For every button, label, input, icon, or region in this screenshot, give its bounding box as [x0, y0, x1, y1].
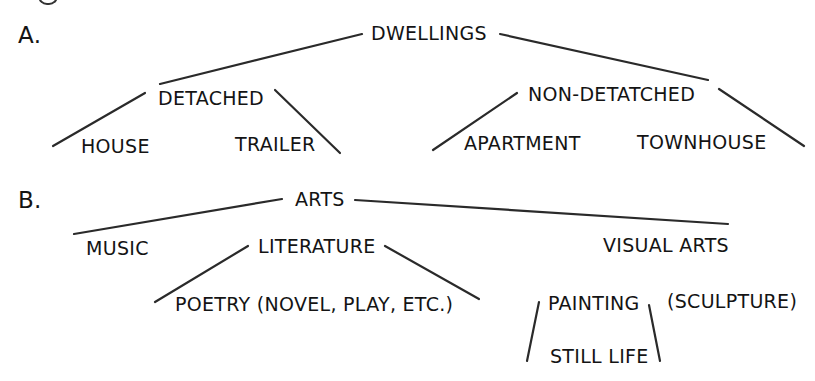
edge-literature-right: [385, 246, 479, 299]
edge-dwellings-detached: [160, 34, 362, 84]
section-label-b: B.: [18, 189, 42, 212]
edge-dwellings-nondetached: [500, 34, 708, 80]
node-detached: DETACHED: [158, 89, 264, 108]
node-visual-arts: VISUAL ARTS: [603, 236, 729, 255]
connector-lines: [0, 0, 815, 381]
node-arts: ARTS: [295, 190, 345, 209]
section-label-a: A.: [18, 24, 41, 47]
node-house: HOUSE: [81, 137, 150, 156]
node-sculpture: (SCULPTURE): [667, 292, 797, 311]
node-poetry: POETRY (NOVEL, PLAY, ETC.): [175, 295, 453, 314]
edge-painting-left: [527, 302, 539, 361]
edge-arts-visualarts: [355, 200, 728, 224]
taxonomy-diagram: A. DWELLINGS DETACHED HOUSE TRAILER NON-…: [0, 0, 815, 381]
node-townhouse: TOWNHOUSE: [637, 133, 766, 152]
edge-arts-music: [74, 199, 282, 234]
node-literature: LITERATURE: [258, 237, 375, 256]
node-painting: PAINTING: [548, 294, 640, 313]
node-apartment: APARTMENT: [464, 134, 581, 153]
node-music: MUSIC: [86, 239, 149, 258]
node-still-life: STILL LIFE: [550, 347, 649, 366]
node-dwellings: DWELLINGS: [371, 24, 487, 43]
node-non-detatched: NON-DETATCHED: [528, 85, 695, 104]
edge-painting-right: [649, 305, 660, 361]
node-trailer: TRAILER: [235, 135, 316, 154]
